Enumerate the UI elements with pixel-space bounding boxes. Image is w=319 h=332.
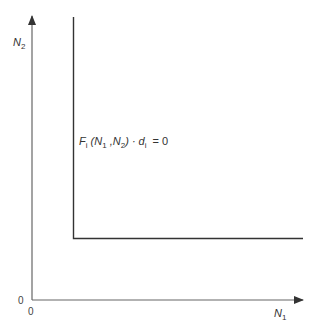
x-origin-label: 0: [28, 306, 34, 317]
y-origin-label: 0: [18, 295, 24, 306]
y-axis-label: N2: [13, 36, 25, 51]
diagram-canvas: [0, 0, 319, 332]
curve-equation-label: Fi (N1 ,N2) · di = 0: [79, 135, 168, 150]
x-axis-label: N1: [274, 307, 286, 322]
constraint-curve: [74, 17, 304, 239]
